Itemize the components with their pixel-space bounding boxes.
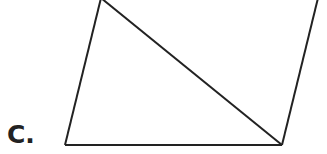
diagonal [101, 0, 282, 145]
quadrilateral-figure [0, 0, 327, 154]
right-edge [282, 0, 318, 145]
left-edge [65, 0, 101, 145]
